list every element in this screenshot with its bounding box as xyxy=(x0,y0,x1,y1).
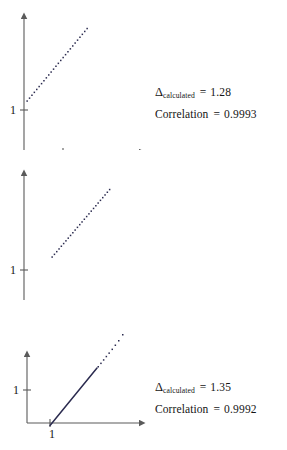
y-tick-label-1: 1 xyxy=(10,103,16,117)
plot-area-2: 1 1 xyxy=(0,150,150,300)
chart-panel-1: 1 1 xyxy=(0,0,287,150)
delta-equals: = xyxy=(200,86,207,98)
chart-panel-2: 1 1 xyxy=(0,150,287,300)
annotation-block-1: Δcalculated=1.28 Correlation=0.9993 xyxy=(155,86,287,120)
chart-panel-3: 1 1 Δcalculated=1.45 Correlation=0.9987 xyxy=(0,300,287,450)
delta-line-1: Δcalculated=1.28 xyxy=(155,86,287,100)
y-tick-label-2: 1 xyxy=(10,263,16,277)
correlation-value: 0.9993 xyxy=(224,108,257,120)
delta-value: 1.28 xyxy=(210,86,231,98)
data-series-dotted-3 xyxy=(98,334,124,368)
y-tick-label-3: 1 xyxy=(13,383,19,397)
correlation-line-1: Correlation=0.9993 xyxy=(155,109,287,121)
plot-area-3: 1 1 xyxy=(0,300,150,450)
data-series-solid-3 xyxy=(50,368,97,426)
x-tick-label-3: 1 xyxy=(49,427,55,441)
delta-symbol: Δ xyxy=(155,85,163,99)
correlation-equals: = xyxy=(213,108,220,120)
data-series-dotted-2 xyxy=(51,189,110,258)
delta-subscript: calculated xyxy=(163,91,195,100)
correlation-label: Correlation xyxy=(155,108,208,120)
data-series-dotted-1 xyxy=(26,28,88,102)
plot-area-1: 1 1 xyxy=(0,0,150,150)
